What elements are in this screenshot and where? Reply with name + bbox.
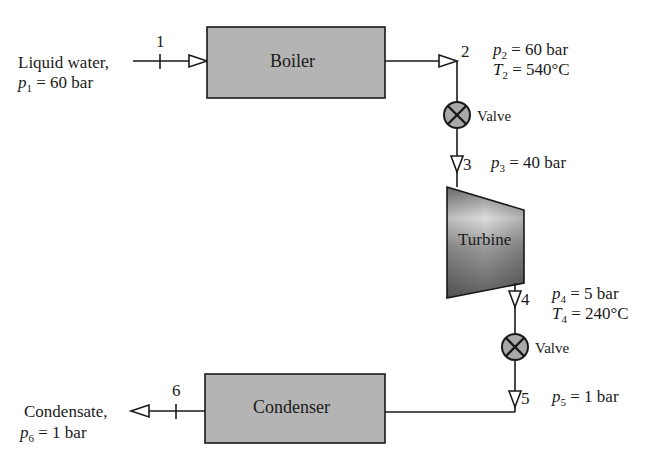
stream-valve-to-5 [385, 360, 521, 412]
outlet-stream [131, 404, 205, 419]
stream-boiler-to-2 [385, 55, 457, 102]
inlet-pressure: p1 = 60 bar [18, 73, 93, 92]
state-4-pressure: p4 = 5 bar [552, 284, 619, 303]
turbine-label: Turbine [458, 230, 511, 249]
state-2-temperature: T2 = 540°C [493, 60, 570, 79]
outlet-description: Condensate, [24, 402, 108, 421]
valve-1-icon [444, 102, 470, 128]
arrow-3-icon [451, 156, 463, 172]
boiler-label: Boiler [270, 52, 315, 71]
state-5-pressure: p5 = 1 bar [552, 387, 619, 406]
state-2-pressure: p2 = 60 bar [493, 40, 568, 59]
state-5-label: 5 [521, 389, 530, 408]
state-4-label: 4 [521, 290, 530, 309]
inlet-arrow-icon [189, 55, 207, 67]
state-1-label: 1 [156, 32, 165, 51]
stream-turbine-to-4 [509, 283, 521, 334]
state-3-label: 3 [463, 155, 472, 174]
state-6-label: 6 [172, 381, 181, 400]
state-3-pressure: p3 = 40 bar [491, 153, 566, 172]
stream-valve-to-3 [451, 128, 463, 187]
outlet-pressure: p6 = 1 bar [20, 423, 87, 442]
arrow-5-icon [509, 391, 521, 407]
outlet-arrow-icon [131, 405, 149, 417]
inlet-description: Liquid water, [18, 53, 109, 72]
condenser-label: Condenser [253, 398, 330, 417]
inlet-stream [133, 54, 207, 69]
valve-2-icon [502, 334, 528, 360]
valve-1-label: Valve [477, 107, 511, 126]
state-4-temperature: T4 = 240°C [552, 304, 629, 323]
arrow-4-icon [509, 291, 521, 307]
state-2-label: 2 [461, 42, 470, 61]
valve-2-label: Valve [535, 339, 569, 358]
arrow-2-icon [439, 55, 457, 67]
